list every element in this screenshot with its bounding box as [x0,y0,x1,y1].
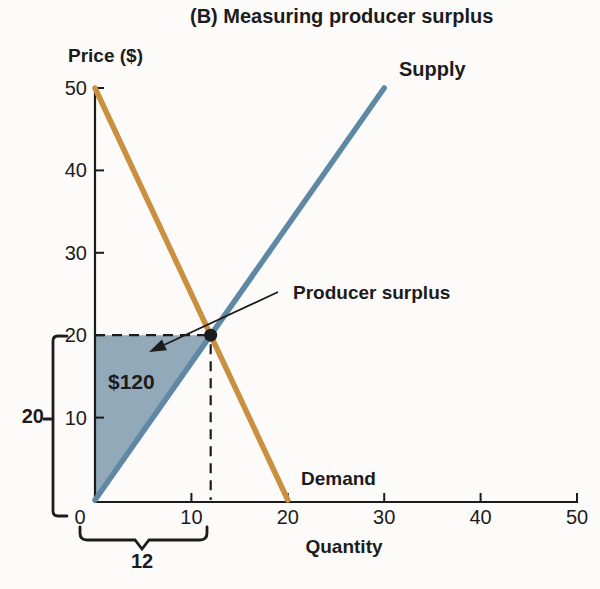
y-tick-label: 20 [65,324,87,346]
y-tick-label: 50 [65,77,87,99]
x-tick-label: 10 [180,506,202,528]
price-span-bracket [44,336,67,516]
demand-label: Demand [301,469,376,488]
price-span-label: 20 [14,406,44,426]
y-tick-label: 30 [65,242,87,264]
equilibrium-point [204,329,217,342]
producer-surplus-annotation: Producer surplus [293,283,450,302]
x-axis-title: Quantity [294,537,394,556]
y-tick-label: 40 [65,159,87,181]
figure: 102030405001020304050 (B) Measuring prod… [0,0,600,589]
x-tick-label: 0 [74,506,85,528]
x-tick-label: 20 [277,506,299,528]
surplus-area-value: $120 [108,371,155,392]
y-tick-label: 10 [65,407,87,429]
y-axis-title: Price ($) [68,46,143,65]
quantity-span-bracket [80,527,207,549]
figure-title: (B) Measuring producer surplus [190,6,490,26]
x-tick-label: 30 [373,506,395,528]
quantity-span-label: 12 [122,551,162,571]
x-tick-label: 50 [566,506,588,528]
x-tick-label: 40 [469,506,491,528]
annotation-arrow-line [164,292,278,345]
supply-label: Supply [399,59,466,79]
